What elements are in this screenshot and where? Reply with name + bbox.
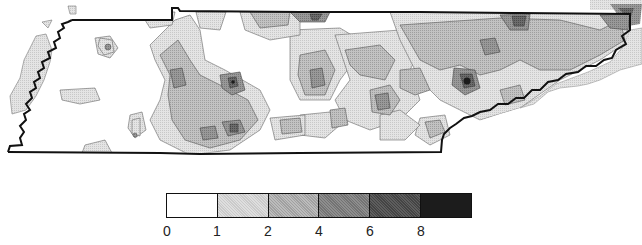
legend-tick-4: 4 <box>315 223 323 239</box>
legend-tick-0: 0 <box>163 223 171 239</box>
legend-swatch-6-8 <box>370 194 421 217</box>
legend-tick-6: 6 <box>366 223 374 239</box>
legend-swatch-0-1 <box>167 194 218 217</box>
legend-swatch-4-6 <box>319 194 370 217</box>
legend <box>166 193 472 219</box>
legend-swatch-1-2 <box>218 194 269 217</box>
legend-bar <box>166 193 472 218</box>
legend-tick-2: 2 <box>264 223 272 239</box>
contour-layers <box>60 12 630 155</box>
legend-swatch-2-4 <box>269 194 320 217</box>
legend-tick-8: 8 <box>417 223 425 239</box>
legend-tick-1: 1 <box>213 223 221 239</box>
legend-swatch-8-plus <box>421 194 471 217</box>
